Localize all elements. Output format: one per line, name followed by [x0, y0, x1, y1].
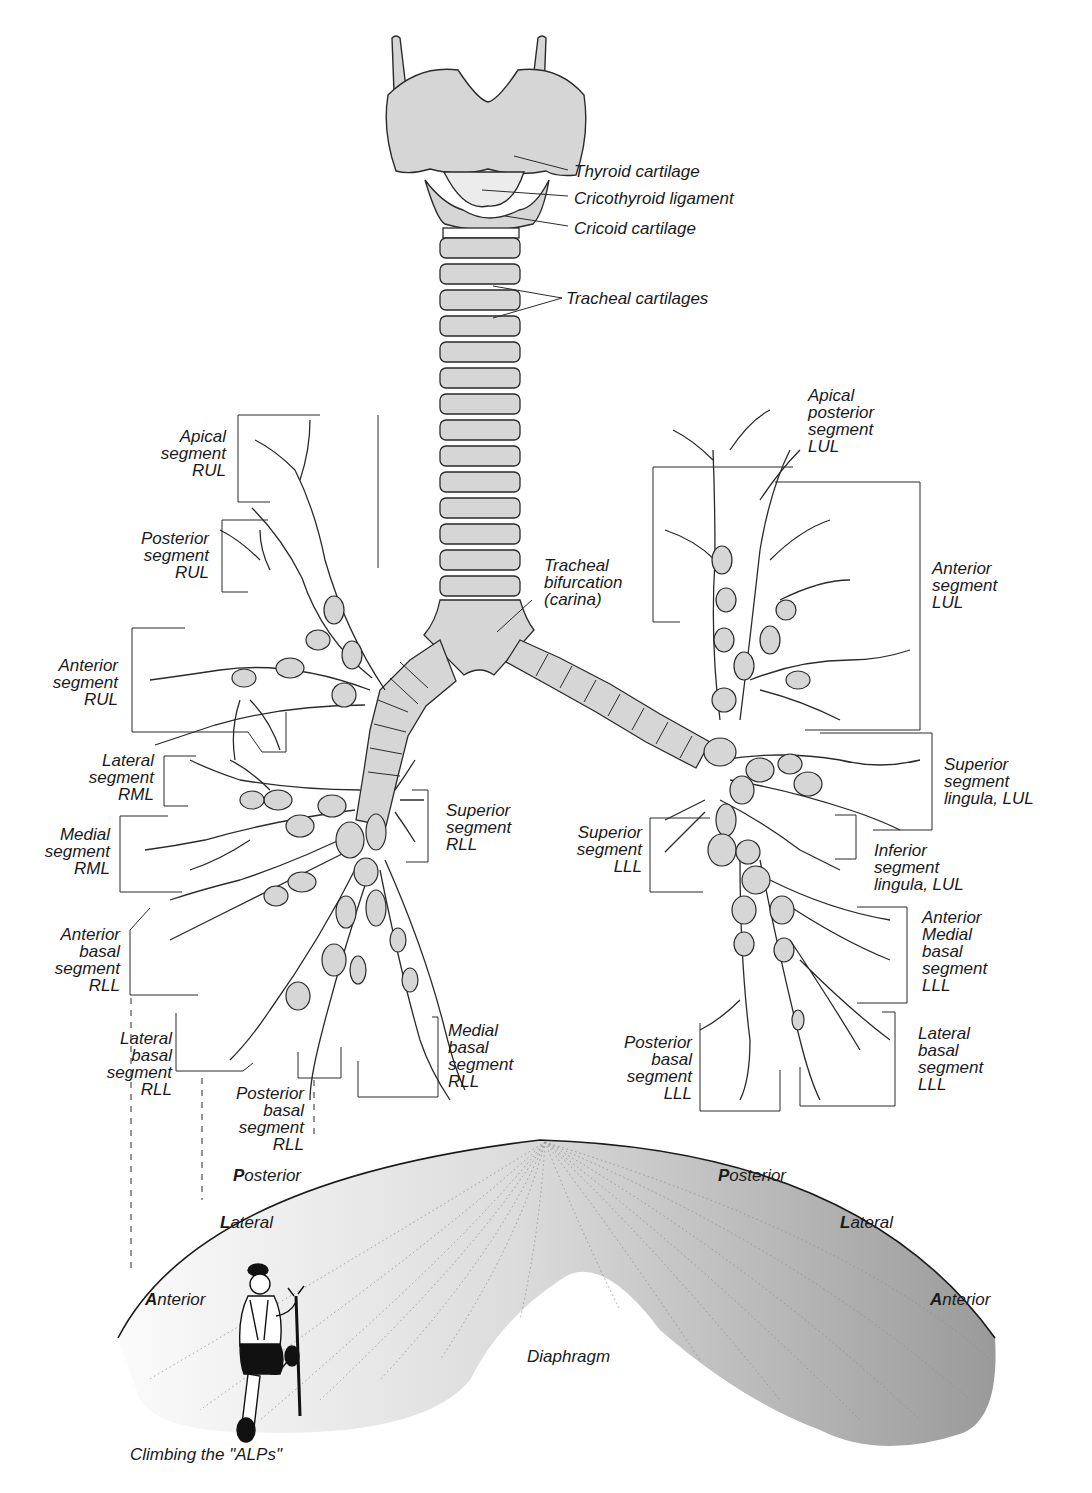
label-anterior-segment-lul: Anterior segment LUL: [932, 560, 997, 611]
label-diaphragm: Diaphragm: [527, 1347, 610, 1367]
label-left-lateral: Lateral: [220, 1213, 273, 1233]
label-apical-segment-rul: Apical segment RUL: [161, 428, 226, 479]
label-cricoid-cartilage: Cricoid cartilage: [574, 220, 696, 237]
label-posterior-basal-segment-rll: Posterior basal segment RLL: [236, 1085, 304, 1153]
label-right-posterior: Posterior: [718, 1166, 786, 1186]
label-superior-segment-lll: Superior segment LLL: [577, 824, 642, 875]
label-right-anterior: Anterior: [930, 1290, 990, 1310]
trachea: [424, 228, 534, 675]
label-left-anterior: Anterior: [145, 1290, 205, 1310]
label-medial-segment-rml: Medial segment RML: [45, 826, 110, 877]
label-anterior-basal-segment-rll: Anterior basal segment RLL: [55, 926, 120, 994]
label-superior-segment-rll: Superior segment RLL: [446, 802, 511, 853]
label-tracheal-cartilages: Tracheal cartilages: [566, 290, 708, 307]
label-right-lateral: Lateral: [840, 1213, 893, 1233]
label-tracheal-bifurcation: Tracheal bifurcation (carina): [544, 557, 622, 608]
label-apical-posterior-segment-lul: Apical posterior segment LUL: [808, 387, 874, 455]
label-lateral-basal-segment-rll: Lateral basal segment RLL: [107, 1030, 172, 1098]
label-left-posterior: Posterior: [233, 1166, 301, 1186]
label-cricothyroid-ligament: Cricothyroid ligament: [574, 190, 734, 207]
label-inferior-segment-lingula: Inferior segment lingula, LUL: [874, 842, 964, 893]
label-thyroid-cartilage: Thyroid cartilage: [574, 163, 700, 180]
label-anterior-segment-rul: Anterior segment RUL: [53, 657, 118, 708]
caption-climbing-alps: Climbing the "ALPs": [130, 1445, 282, 1465]
main-bronchi: [356, 640, 710, 826]
label-lateral-basal-segment-lll: Lateral basal segment LLL: [918, 1025, 983, 1093]
label-posterior-basal-segment-lll: Posterior basal segment LLL: [624, 1034, 692, 1102]
label-posterior-segment-rul: Posterior segment RUL: [141, 530, 209, 581]
larynx: [386, 36, 586, 230]
label-medial-basal-segment-rll: Medial basal segment RLL: [448, 1022, 513, 1090]
label-lateral-segment-rml: Lateral segment RML: [89, 752, 154, 803]
label-superior-segment-lingula: Superior segment lingula, LUL: [944, 756, 1034, 807]
bronchial-tree-illustration: [0, 0, 1092, 1493]
left-cartilage-plates: [704, 546, 822, 1030]
label-anterior-medial-basal-segment-lll: Anterior Medial basal segment LLL: [922, 909, 987, 994]
